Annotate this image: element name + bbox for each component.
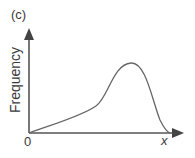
frequency-curve <box>29 63 170 133</box>
y-axis-arrow-icon <box>24 28 34 40</box>
skewed-distribution-figure: (c) Frequency 0 x <box>0 0 195 158</box>
y-axis-label: Frequency <box>8 47 22 113</box>
x-axis-label: x <box>161 134 168 147</box>
panel-label: (c) <box>11 8 26 21</box>
origin-tick-label: 0 <box>24 135 31 148</box>
x-axis-arrow-icon <box>172 128 184 138</box>
